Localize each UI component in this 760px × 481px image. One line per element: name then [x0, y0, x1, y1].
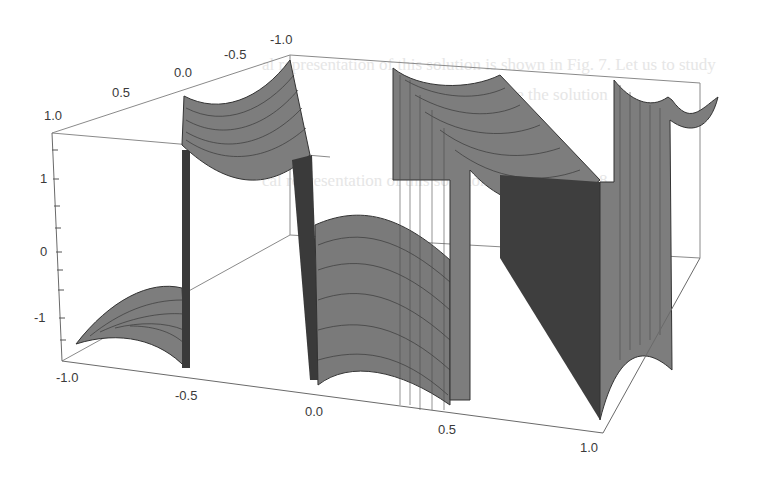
z-tick-label: 0 [40, 244, 47, 259]
x-tick-label: -0.5 [175, 388, 197, 403]
x-tick-label: 1.0 [580, 440, 598, 455]
y-tick-label: -0.5 [224, 47, 246, 62]
x-tick-label: 0.5 [438, 422, 456, 437]
y-tick-label: 1.0 [44, 108, 62, 123]
x-tick-label: -1.0 [56, 370, 78, 385]
surface-patches [76, 60, 718, 420]
x-tick-label: 0.0 [305, 404, 323, 419]
z-axis [52, 150, 66, 340]
surface-plot: al representation of this solution is sh… [0, 0, 760, 481]
y-tick-label: 0.0 [174, 65, 192, 80]
y-tick-label: -1.0 [270, 32, 292, 47]
z-tick-label: 1 [40, 171, 47, 186]
z-tick-label: -1 [34, 310, 46, 325]
y-tick-label: 0.5 [112, 85, 130, 100]
